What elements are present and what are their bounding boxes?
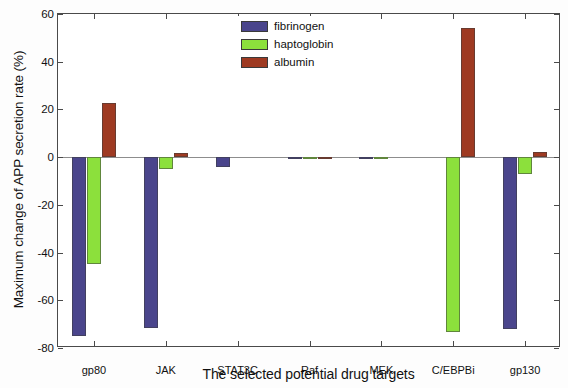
y-axis-tick: [58, 109, 63, 110]
y-axis-tick-right: [554, 300, 559, 301]
bar-stat3c-fibrinogen: [216, 157, 230, 167]
bar-mek-fibrinogen: [359, 157, 373, 159]
y-axis-tick-right: [554, 253, 559, 254]
y-axis-tick-right: [554, 157, 559, 158]
legend-item-albumin: albumin: [241, 55, 333, 70]
bar-mek-haptoglobin: [374, 157, 388, 159]
x-axis-tick: [453, 341, 454, 346]
bar-gp130-fibrinogen: [503, 157, 517, 329]
y-axis-tick: [58, 157, 63, 158]
y-axis-tick: [58, 62, 63, 63]
y-axis-tick-label: -60: [37, 294, 54, 306]
bar-jak-albumin: [174, 153, 188, 157]
chart-legend: fibrinogen haptoglobin albumin: [237, 16, 339, 73]
y-axis-tick-right: [554, 109, 559, 110]
y-axis-tick-right: [554, 14, 559, 15]
legend-item-fibrinogen: fibrinogen: [241, 19, 333, 34]
bar-raf-haptoglobin: [303, 157, 317, 159]
x-axis-tick: [381, 341, 382, 346]
legend-item-haptoglobin: haptoglobin: [241, 37, 333, 52]
x-axis-tick: [94, 341, 95, 346]
x-axis-tick: [310, 341, 311, 346]
x-axis-tick-top: [381, 14, 382, 19]
legend-label-albumin: albumin: [274, 57, 314, 69]
y-axis-tick-label: 0: [48, 151, 54, 163]
bar-cebpbi-haptoglobin: [446, 157, 460, 332]
legend-label-fibrinogen: fibrinogen: [274, 21, 325, 33]
y-axis-tick-label: -20: [37, 199, 54, 211]
bar-gp80-albumin: [102, 103, 116, 157]
x-axis-tick-top: [525, 14, 526, 19]
x-axis-tick: [238, 341, 239, 346]
y-axis-tick-right: [554, 205, 559, 206]
y-axis-tick: [58, 14, 63, 15]
y-axis-tick-right: [554, 348, 559, 349]
y-axis-tick: [58, 205, 63, 206]
bar-raf-fibrinogen: [288, 157, 302, 159]
y-axis-tick-label: 40: [41, 56, 54, 68]
y-axis-tick-label: 60: [41, 8, 54, 20]
legend-swatch-icon-fibrinogen: [241, 21, 268, 32]
legend-swatch-icon-albumin: [241, 57, 268, 68]
y-axis-tick-label: -80: [37, 342, 54, 354]
x-axis-tick-top: [453, 14, 454, 19]
chart-figure: Maximum change of APP secretion rate (%)…: [0, 0, 568, 388]
bar-gp80-fibrinogen: [72, 157, 86, 336]
bar-gp130-albumin: [533, 152, 547, 157]
bar-gp80-haptoglobin: [87, 157, 101, 264]
y-axis-tick-label: 20: [41, 103, 54, 115]
y-axis-tick: [58, 300, 63, 301]
x-axis-title: The selected potential drug targets: [57, 366, 560, 382]
legend-swatch-icon-haptoglobin: [241, 39, 268, 50]
legend-label-haptoglobin: haptoglobin: [274, 39, 333, 51]
x-axis-tick-top: [166, 14, 167, 19]
y-axis-tick: [58, 253, 63, 254]
y-axis-tick-label: -40: [37, 247, 54, 259]
x-axis-tick: [525, 341, 526, 346]
bar-jak-fibrinogen: [144, 157, 158, 328]
y-axis-tick: [58, 348, 63, 349]
x-axis-tick-top: [94, 14, 95, 19]
y-axis-title: Maximum change of APP secretion rate (%): [11, 10, 26, 350]
bar-gp130-haptoglobin: [518, 157, 532, 174]
y-axis-tick-right: [554, 62, 559, 63]
bar-cebpbi-albumin: [461, 28, 475, 157]
x-axis-tick: [166, 341, 167, 346]
bar-raf-albumin: [318, 157, 332, 159]
bar-jak-haptoglobin: [159, 157, 173, 169]
